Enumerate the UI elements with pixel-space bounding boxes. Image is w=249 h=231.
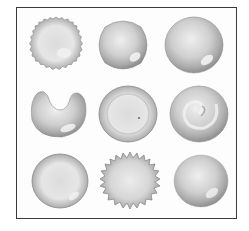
- cell-normal-biconcave: [97, 84, 159, 144]
- cell-smooth-disc: [30, 152, 90, 210]
- cell-echinocyte: [98, 150, 162, 212]
- cell-crenated-disc: [26, 15, 86, 73]
- cell-bitten: [28, 84, 90, 142]
- cell-spherocyte: [163, 15, 225, 75]
- cell-sphere: [172, 153, 230, 209]
- cell-swirl: [168, 84, 230, 144]
- cell-rounded-square: [95, 17, 151, 73]
